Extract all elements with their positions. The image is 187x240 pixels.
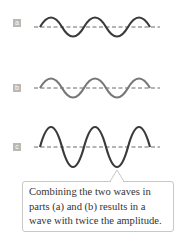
callout-line-1: Combining the two waves in — [29, 185, 167, 200]
callout-line-2: parts (a) and (b) results in a — [29, 200, 167, 215]
callout-box: Combining the two waves in parts (a) and… — [22, 181, 174, 232]
callout-line-3: wave with twice the amplitude. — [29, 214, 167, 229]
callout-pointer — [110, 170, 124, 182]
